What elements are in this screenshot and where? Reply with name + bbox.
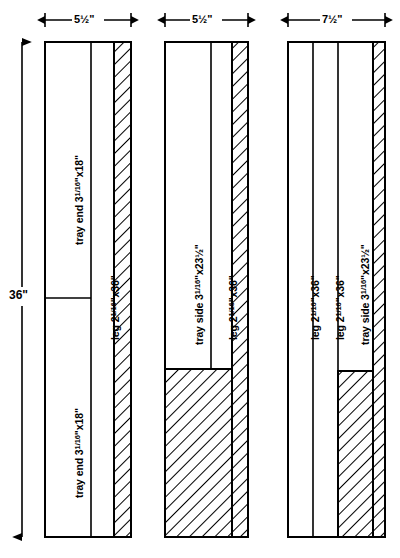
piece-label-text: tray side 3 (193, 294, 205, 345)
piece-label-text: tray end 3 (73, 449, 85, 498)
piece-label-fraction: 1/16 (110, 302, 118, 316)
piece-label-text: tray end 3 (73, 196, 85, 245)
board-3-waste-strip (373, 42, 385, 537)
board-2-piece-2-label: leg 21/16"x36" (228, 275, 239, 340)
board-3-piece-2-label: leg 21/16"x36" (335, 275, 346, 340)
piece-label-text: leg 2 (227, 317, 239, 340)
board-3-waste-block (338, 371, 373, 537)
board-2-width-label: 5½" (190, 13, 215, 25)
piece-label-text: leg 2 (334, 317, 346, 340)
piece-label-tail: "x18" (73, 155, 85, 182)
piece-label-fraction: 1/16 (74, 435, 82, 449)
board-2-piece-1-label: tray side 31/16"x23½" (194, 244, 205, 345)
piece-label-tail: "x23½" (193, 244, 205, 280)
board-3-piece-1-label: leg 21/16"x36" (310, 275, 321, 340)
piece-label-fraction: 1/16 (310, 302, 318, 316)
piece-label-text: tray side 3 (359, 294, 371, 345)
piece-label-fraction: 1/16 (335, 302, 343, 316)
piece-label-tail: "x36" (334, 275, 346, 302)
piece-label-tail: "x36" (227, 275, 239, 302)
board-1-piece-1-label: tray end 31/16"x18" (74, 155, 85, 245)
overall-length-label: 36" (8, 287, 29, 304)
piece-label-fraction: 1/16 (194, 280, 202, 294)
piece-label-text: leg 2 (309, 317, 321, 340)
piece-label-tail: "x36" (109, 275, 121, 302)
piece-label-fraction: 1/16 (360, 280, 368, 294)
piece-label-text: leg 2 (109, 317, 121, 340)
piece-label-tail: "x23½" (359, 244, 371, 280)
piece-label-fraction: 1/16 (74, 182, 82, 196)
board-3-piece-3-label: tray side 31/16"x23½" (360, 244, 371, 345)
board-3-width-label: 7½" (320, 13, 345, 25)
board-1-piece-2-label: tray end 31/16"x18" (74, 408, 85, 498)
board-1-piece-3-label: leg 21/16"x36" (110, 275, 121, 340)
piece-label-tail: "x18" (73, 408, 85, 435)
board-1-width-label: 5½" (72, 13, 97, 25)
cutting-layout-diagram: 5½" 5½" 7½" 36" tray end 31/16"x18" tray… (0, 0, 400, 558)
piece-label-fraction: 1/16 (228, 302, 236, 316)
board-2-waste-block (165, 369, 232, 537)
piece-label-tail: "x36" (309, 275, 321, 302)
